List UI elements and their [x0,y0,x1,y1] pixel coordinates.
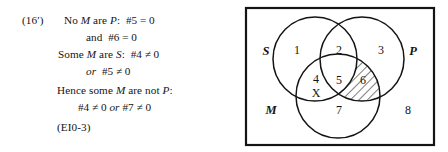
region-label-1: 1 [294,43,300,57]
conclusion-expression-1: #4 ≠ 0 [78,101,107,113]
premise-2a-prefix: Some [58,48,87,60]
set-label-M: M [264,103,277,117]
premise-2a-middle: are [96,48,116,60]
derivation-block: (16′) No M are P: #5 = 0 and #6 = 0 Some… [0,0,228,152]
conclusion-prefix: Hence some [57,84,116,96]
premise-1a-colon: : [117,14,120,26]
region-label-7: 7 [336,103,342,117]
rule-reference: (EI0-3) [57,121,91,133]
premise-2a-expression: #4 ≠ 0 [131,48,160,60]
conclusion-conjunction: or [109,101,119,113]
venn-diagram-svg: S P M 1 2 3 4 5 6 7 8 X [242,4,438,149]
derivation-line-premise-2a: Some M are S: #4 ≠ 0 [58,48,159,60]
premise-1b-expression: #6 = 0 [108,31,137,43]
set-label-P: P [409,44,417,58]
set-label-S: S [263,44,270,58]
venn-syllogism-figure: (16′) No M are P: #5 = 0 and #6 = 0 Some… [0,0,448,152]
premise-2a-term-middle: M [87,48,96,60]
conclusion-middle: are not [125,84,162,96]
derivation-line-premise-1a: No M are P: #5 = 0 [64,14,155,26]
region-label-6: 6 [360,73,366,87]
premise-1a-middle: are [90,14,110,26]
region-label-8: 8 [405,103,411,117]
derivation-line-conclusion-b: #4 ≠ 0 or #7 ≠ 0 [78,101,151,113]
existential-x-marker: X [312,86,321,100]
derivation-line-premise-1b: and #6 = 0 [86,31,137,43]
region-label-5: 5 [336,73,342,87]
derivation-line-conclusion-a: Hence some M are not P: [57,84,173,96]
premise-1a-expression: #5 = 0 [126,14,155,26]
premise-1a-term-minor: M [81,14,90,26]
region-label-2: 2 [336,43,342,57]
premise-1a-term-major: P [110,14,117,26]
conclusion-expression-2: #7 ≠ 0 [122,101,151,113]
conclusion-colon: : [170,84,173,96]
conclusion-term-middle: M [116,84,125,96]
region-label-3: 3 [378,43,384,57]
premise-1b-conjunction: and [86,31,102,43]
premise-2a-colon: : [122,48,125,60]
premise-1a-prefix: No [64,14,81,26]
derivation-line-premise-2b: or #5 ≠ 0 [86,65,130,77]
step-label: (16′) [22,14,44,26]
conclusion-term-major: P [163,84,170,96]
region-label-4: 4 [313,72,319,86]
premise-2b-expression: #5 ≠ 0 [102,65,131,77]
premise-2b-conjunction: or [86,65,96,77]
venn-diagram: S P M 1 2 3 4 5 6 7 8 X [242,4,438,149]
